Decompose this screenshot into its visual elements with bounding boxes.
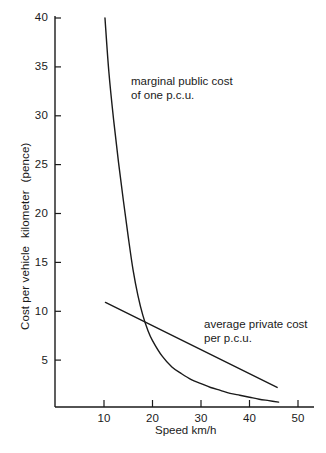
x-tick-label-30: 30 <box>188 412 214 424</box>
y-tick-label-40: 40 <box>22 11 48 23</box>
annotation-average-line1: average private cost <box>204 317 308 331</box>
annotation-marginal-line1: marginal public cost <box>131 74 233 88</box>
x-tick-label-10: 10 <box>91 412 117 424</box>
y-axis-title: Cost per vehiclekilometer(pence) <box>19 143 31 330</box>
annotation-marginal-line2: of one p.c.u. <box>131 88 233 102</box>
annotation-average-private-cost: average private cost per p.c.u. <box>204 317 308 345</box>
y-tick-label-35: 35 <box>22 60 48 72</box>
x-axis-title: Speed km/h <box>155 424 216 436</box>
annotation-average-line2: per p.c.u. <box>204 331 308 345</box>
y-tick-label-30: 30 <box>22 109 48 121</box>
y-axis-title-part1: Cost per vehicle <box>19 246 31 330</box>
y-axis-title-part2: kilometer <box>19 190 31 238</box>
x-tick-label-20: 20 <box>140 412 166 424</box>
x-tick-label-40: 40 <box>237 412 263 424</box>
chart-figure: 40 35 30 25 20 15 10 5 10 20 30 40 50 Co… <box>0 0 326 453</box>
y-tick-label-5: 5 <box>22 354 48 366</box>
chart-plot-area <box>0 0 326 453</box>
annotation-marginal-public-cost: marginal public cost of one p.c.u. <box>131 74 233 102</box>
y-axis-ticks <box>55 18 61 360</box>
y-axis-title-part3: (pence) <box>19 143 31 183</box>
x-tick-label-50: 50 <box>285 412 311 424</box>
